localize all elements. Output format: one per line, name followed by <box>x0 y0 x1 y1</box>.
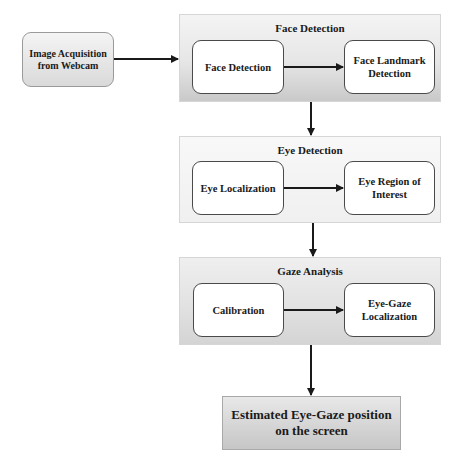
calibration-label: Calibration <box>213 304 265 317</box>
eye-localization-label: Eye Localization <box>201 182 276 195</box>
eye-gaze-localization-label: Eye-Gaze Localization <box>351 297 428 323</box>
estimated-gaze-output-node: Estimated Eye-Gaze position on the scree… <box>222 396 401 450</box>
eye-gaze-localization-node: Eye-Gaze Localization <box>344 283 435 337</box>
gaze-analysis-panel-title: Gaze Analysis <box>180 265 440 277</box>
calibration-node: Calibration <box>193 283 284 337</box>
face-detection-node: Face Detection <box>192 40 284 94</box>
image-acquisition-label: Image Acquisition from Webcam <box>27 48 109 72</box>
eye-detection-panel-title: Eye Detection <box>180 144 440 156</box>
face-landmark-detection-node: Face Landmark Detection <box>344 40 435 94</box>
image-acquisition-node: Image Acquisition from Webcam <box>22 32 114 87</box>
face-detection-label: Face Detection <box>205 61 271 74</box>
eye-region-of-interest-label: Eye Region of Interest <box>351 175 428 201</box>
eye-region-of-interest-node: Eye Region of Interest <box>344 161 435 215</box>
face-landmark-detection-label: Face Landmark Detection <box>351 54 428 80</box>
estimated-gaze-output-label: Estimated Eye-Gaze position on the scree… <box>231 407 392 439</box>
eye-localization-node: Eye Localization <box>192 161 284 215</box>
face-detection-panel-title: Face Detection <box>180 22 440 34</box>
